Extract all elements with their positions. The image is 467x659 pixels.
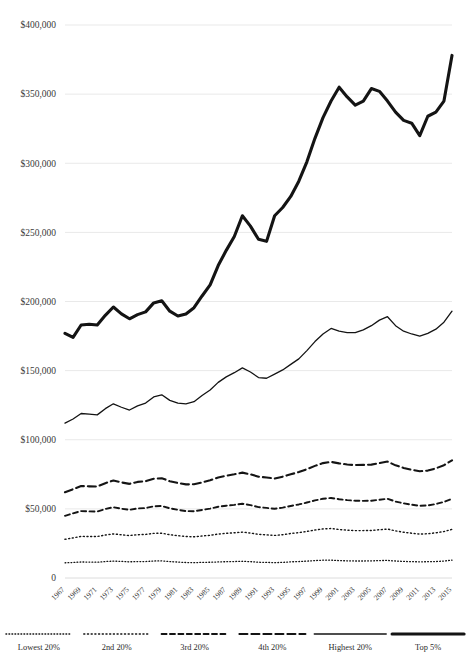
chart-legend: Lowest 20%2nd 20%3rd 20%4th 20%Highest 2… <box>6 634 464 652</box>
x-axis-tick-label: 1969 <box>65 585 82 602</box>
legend-label-highest-20: Highest 20% <box>329 643 373 652</box>
x-axis-tick-label: 1987 <box>211 585 228 602</box>
x-axis-tick-label: 1991 <box>243 585 260 602</box>
x-axis-tick-label: 2001 <box>323 585 340 602</box>
y-axis-tick-label: 0 <box>51 573 56 583</box>
data-series-group <box>65 55 452 562</box>
x-axis-tick-label: 2011 <box>404 585 421 602</box>
x-axis-tick-label: 1993 <box>259 585 276 602</box>
y-axis-tick-labels: 0$50,000$100,000$150,000$200,000$250,000… <box>20 20 56 583</box>
income-quintile-line-chart: 0$50,000$100,000$150,000$200,000$250,000… <box>0 0 467 659</box>
x-axis-tick-label: 1985 <box>194 585 211 602</box>
legend-label-lowest-20: Lowest 20% <box>18 643 60 652</box>
x-axis-tick-label: 2005 <box>356 585 373 602</box>
x-axis-tick-labels: 1967196919711973197519771979198119831985… <box>49 585 453 602</box>
legend-label-top-5: Top 5% <box>415 643 441 652</box>
x-axis-tick-label: 1971 <box>82 585 99 602</box>
x-axis-tick-label: 1983 <box>178 585 195 602</box>
y-axis-tick-label: $200,000 <box>20 297 56 307</box>
x-axis-tick-label: 1981 <box>162 585 179 602</box>
series-line-3rd-20 <box>65 498 452 516</box>
x-axis-tick-label: 1989 <box>227 585 244 602</box>
x-axis-tick-label: 2003 <box>340 585 357 602</box>
series-line-lowest-20 <box>65 560 452 563</box>
legend-label-4th-20: 4th 20% <box>258 643 286 652</box>
x-axis-tick-label: 1997 <box>291 585 308 602</box>
y-axis-tick-label: $150,000 <box>20 366 56 376</box>
x-axis-tick-label: 1975 <box>114 585 131 602</box>
x-axis-tick-label: 1967 <box>49 585 66 602</box>
x-axis-tick-label: 1977 <box>130 585 147 602</box>
y-axis-tick-label: $250,000 <box>20 228 56 238</box>
x-axis-tick-label: 1999 <box>307 585 324 602</box>
series-line-4th-20 <box>65 460 452 492</box>
x-axis-tick-label: 2013 <box>420 585 437 602</box>
legend-label-3rd-20: 3rd 20% <box>180 643 209 652</box>
chart-container: 0$50,000$100,000$150,000$200,000$250,000… <box>0 0 467 659</box>
series-line-highest-20 <box>65 311 452 423</box>
x-axis-tick-label: 2015 <box>436 585 453 602</box>
y-axis-tick-label: $350,000 <box>20 89 56 99</box>
y-axis-tick-label: $50,000 <box>25 504 56 514</box>
series-line-top-5 <box>65 55 452 337</box>
x-axis-tick-label: 2009 <box>388 585 405 602</box>
y-axis-tick-label: $100,000 <box>20 435 56 445</box>
y-axis-tick-label: $400,000 <box>20 20 56 30</box>
x-axis-tick-label: 1973 <box>98 585 115 602</box>
x-axis-tick-label: 1979 <box>146 585 163 602</box>
x-axis-tick-label: 1995 <box>275 585 292 602</box>
legend-label-2nd-20: 2nd 20% <box>102 643 132 652</box>
series-line-2nd-20 <box>65 529 452 540</box>
x-axis-tick-label: 2007 <box>372 585 389 602</box>
y-axis-tick-label: $300,000 <box>20 159 56 169</box>
